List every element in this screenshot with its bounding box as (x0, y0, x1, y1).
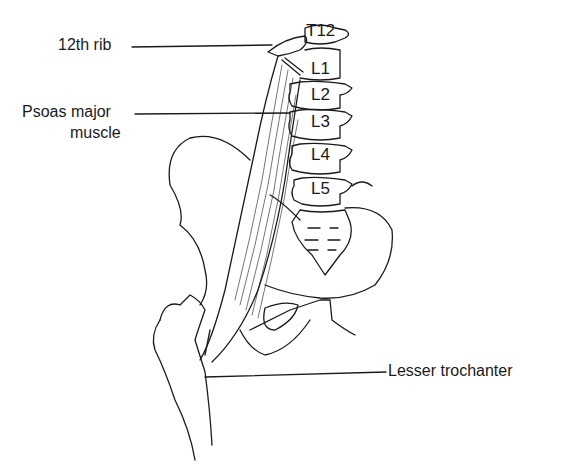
vertebral-column (289, 25, 372, 206)
label-vertebra-t12: T12 (306, 22, 335, 40)
sacrum (292, 210, 351, 275)
right-ilium (265, 195, 392, 298)
obturator-foramen (264, 303, 298, 330)
left-ilium (169, 136, 250, 305)
trochanter-leader-line (205, 372, 386, 377)
psoas-outer-edge (200, 56, 278, 360)
psoas-leader-line (135, 113, 290, 114)
label-lesser-trochanter: Lesser trochanter (388, 362, 513, 380)
psoas-inner-edge (212, 80, 300, 362)
label-psoas-major: Psoas major (22, 103, 111, 121)
label-12th-rib: 12th rib (58, 36, 111, 54)
label-vertebra-l2: L2 (311, 86, 330, 104)
anatomy-diagram: 12th rib Psoas major muscle Lesser troch… (0, 0, 561, 472)
psoas-fibers (235, 65, 298, 318)
label-vertebra-l3: L3 (311, 113, 330, 131)
anatomy-drawing (0, 0, 561, 472)
label-vertebra-l4: L4 (311, 146, 330, 164)
label-vertebra-l5: L5 (311, 180, 330, 198)
rib-leader-line (132, 45, 272, 47)
label-muscle: muscle (70, 124, 121, 142)
label-vertebra-l1: L1 (311, 60, 330, 78)
twelfth-rib (268, 36, 307, 56)
femur-left-edge (153, 320, 195, 460)
femur-right-edge (160, 295, 212, 445)
